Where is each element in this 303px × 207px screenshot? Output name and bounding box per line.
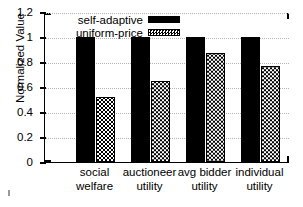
y-axis-tick-label: 1.2 (17, 6, 33, 18)
legend-item: self-adaptive (56, 13, 180, 26)
legend-label: uniform-price (76, 27, 143, 39)
bar-self-adaptive-auctioneer-utility (131, 37, 150, 162)
legend-item: uniform-price (56, 26, 180, 39)
x-axis-label: individualutility (227, 166, 293, 193)
bar-uniform-price-avg-bidder-utility (206, 53, 225, 162)
y-axis-tick-label: 0.8 (17, 56, 33, 68)
x-axis-label-line: auctioneer (123, 166, 177, 178)
y-axis-tick: 0.2 (40, 137, 46, 139)
legend: self-adaptiveuniform-price (56, 13, 180, 39)
bar-chart: Normalized Value 00.20.40.60.811.2 socia… (0, 0, 303, 207)
x-axis-label-line: social (80, 166, 109, 178)
legend-label: self-adaptive (78, 14, 143, 26)
frame-tick-bottom-right (287, 156, 289, 162)
x-axis-label-line: utility (227, 180, 293, 194)
bar-uniform-price-auctioneer-utility (151, 81, 170, 162)
y-axis-tick: 0.4 (40, 112, 46, 114)
x-axis-label-line: avg bidder (178, 166, 232, 178)
bar-uniform-price-social-welfare (96, 97, 115, 162)
y-axis-tick: 0 (40, 162, 46, 164)
y-axis-tick-label: 0.4 (17, 106, 33, 118)
y-axis-tick-label: 0.2 (17, 131, 33, 143)
y-axis-tick-label: 1 (27, 31, 33, 43)
y-axis-tick: 0.6 (40, 87, 46, 89)
y-axis-tick: 0.8 (40, 62, 46, 64)
y-axis-tick-label: 0.6 (17, 81, 33, 93)
bar-uniform-price-individual-utility (261, 66, 280, 162)
bar-self-adaptive-avg-bidder-utility (186, 37, 205, 162)
legend-swatch (148, 16, 180, 23)
y-axis-tick: 1.2 (40, 12, 46, 14)
y-axis-tick: 1 (40, 37, 46, 39)
scan-artifact (8, 190, 10, 196)
bar-self-adaptive-social-welfare (76, 37, 95, 162)
y-axis-tick-label: 0 (27, 156, 33, 168)
legend-swatch (148, 29, 180, 36)
x-axis-label-line: individual (236, 166, 284, 178)
bar-self-adaptive-individual-utility (241, 37, 260, 162)
